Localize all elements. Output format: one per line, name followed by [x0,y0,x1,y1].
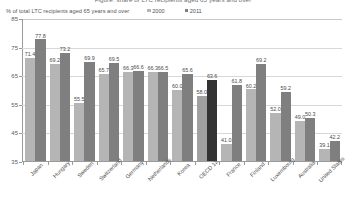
bar-chart: Figure: share of LTC recipients aged 65 … [0,0,346,216]
bar-2000[interactable]: 58.0 [197,96,207,161]
x-axis-category-label: France [219,166,244,216]
bar-value-label: 60.2 [246,84,257,89]
bar-2000[interactable]: 55.5 [74,103,84,161]
legend-swatch-2000 [147,9,150,12]
bar-2000[interactable]: 52.0 [270,113,280,161]
bar-2011[interactable]: 65.6 [182,74,192,161]
x-axis-category-label: Korea [170,166,195,216]
y-axis-tick-label: 35 [11,159,18,165]
x-axis-category-label: Hungary [48,166,73,216]
bar-2000[interactable]: 71.4 [25,58,35,161]
bar-group[interactable]: 55.569.9 [72,19,97,161]
bar-value-label: 73.2 [60,47,71,52]
bar-group[interactable]: 41.061.8 [219,19,244,161]
bar-value-label: 77.8 [35,34,46,39]
y-axis-tick-label: 85 [11,16,18,22]
bar-value-label: 60.0 [172,84,183,89]
bar-2011[interactable]: 66.5 [158,72,168,161]
y-axis-tick [19,133,22,134]
plot-area: 354555657585 71.477.869.273.255.569.965.… [22,19,342,162]
bar-2011[interactable]: 61.8 [232,85,242,161]
bar-value-label: 66.6 [133,65,144,70]
bar-value-label: 49.0 [295,115,306,120]
bar-group[interactable]: 66.366.6 [121,19,146,161]
x-axis-category-label: Netherlands [146,166,171,216]
chart-subtitle: % of total LTC recipients aged 65 years … [6,8,129,14]
bar-2011[interactable]: 63.6 [207,80,217,161]
y-axis-tick-label: 75 [11,45,18,51]
bar-value-label: 69.2 [49,58,60,63]
bar-groups: 71.477.869.273.255.569.965.769.566.366.6… [23,19,342,161]
bar-group[interactable]: 69.273.2 [48,19,73,161]
y-axis-tick [19,48,22,49]
y-axis-tick-label: 45 [11,130,18,136]
legend-label-2000: 2000 [152,8,164,14]
x-axis-category-label: Finland [244,166,269,216]
legend-item-2011: 2011 [185,8,202,14]
x-axis-category-label: Australia [293,166,318,216]
bar-value-label: 52.0 [270,107,281,112]
bar-value-label: 69.9 [84,56,95,61]
bar-group[interactable]: 49.050.3 [293,19,318,161]
bar-group[interactable]: 71.477.8 [23,19,48,161]
x-axis-labels: JapanHungarySwedenSwitzerlandGermanyNeth… [23,166,342,216]
bar-2000[interactable]: 39.1 [319,149,329,161]
bar-value-label: 71.4 [25,52,36,57]
bar-value-label: 66.3 [148,66,159,71]
bar-2011[interactable]: 77.8 [35,39,45,161]
bar-value-label: 39.1 [319,143,330,148]
y-axis-tick [19,105,22,106]
bar-value-label: 65.6 [182,68,193,73]
legend-swatch-2011 [185,9,188,12]
bar-value-label: 69.2 [256,58,267,63]
clipped-figure-title: Figure: share of LTC recipients aged 65 … [0,0,346,3]
bar-group[interactable]: 60.269.2 [244,19,269,161]
y-axis-tick [19,162,22,163]
bar-2000[interactable]: 66.3 [123,72,133,161]
bar-2011[interactable]: 69.5 [109,63,119,161]
x-axis-category-label: United States [317,166,342,216]
bar-value-label: 58.0 [197,90,208,95]
bar-2000[interactable]: 60.2 [246,89,256,161]
bar-value-label: 66.3 [123,66,134,71]
x-axis-category-label: Germany [121,166,146,216]
bar-2011[interactable]: 69.2 [256,64,266,161]
bar-value-label: 61.8 [231,79,242,84]
legend-label-2011: 2011 [190,8,202,14]
x-axis-category-label: OECD 12 [195,166,220,216]
bar-group[interactable]: 39.142.2 [317,19,342,161]
bar-2000[interactable]: 65.7 [99,74,109,161]
bar-value-label: 65.7 [98,68,109,73]
bar-2000[interactable]: 49.0 [295,121,305,161]
legend-item-2000: 2000 [147,8,164,14]
y-axis-tick-label: 55 [11,102,18,108]
bar-value-label: 55.5 [74,97,85,102]
bar-2000[interactable]: 60.0 [172,90,182,161]
bar-2000[interactable]: 41.0 [221,144,231,161]
y-axis-tick [19,19,22,20]
bar-2000[interactable]: 69.2 [50,64,60,161]
bar-2011[interactable]: 73.2 [60,53,70,161]
bar-2011[interactable]: 50.3 [305,118,315,161]
bar-2011[interactable]: 66.6 [133,71,143,161]
x-axis-category-label: Sweden [72,166,97,216]
bar-value-label: 66.5 [158,66,169,71]
bar-value-label: 59.2 [280,86,291,91]
bar-group[interactable]: 66.366.5 [146,19,171,161]
bar-2011[interactable]: 59.2 [281,92,291,161]
bar-value-label: 69.5 [109,57,120,62]
bar-group[interactable]: 52.059.2 [268,19,293,161]
bar-2000[interactable]: 66.3 [148,72,158,161]
bar-value-label: 42.2 [330,135,341,140]
x-axis-category-label: Luxembourg [268,166,293,216]
y-axis-tick-label: 65 [11,73,18,79]
x-axis-category-label: Switzerland [97,166,122,216]
bar-group[interactable]: 60.065.6 [170,19,195,161]
bar-group[interactable]: 58.063.6 [195,19,220,161]
bar-group[interactable]: 65.769.5 [97,19,122,161]
bar-2011[interactable]: 69.9 [84,62,94,161]
bar-value-label: 41.0 [221,138,232,143]
x-axis-category-label: Japan [23,166,48,216]
y-axis-tick [19,76,22,77]
bar-value-label: 63.6 [207,74,218,79]
